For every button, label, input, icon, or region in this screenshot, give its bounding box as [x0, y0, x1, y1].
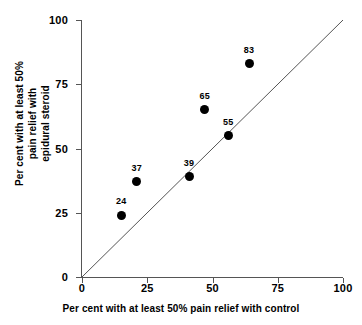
data-point-label: 55 [213, 118, 243, 127]
y-tick-mark [76, 277, 81, 278]
data-point [200, 105, 209, 114]
y-axis-title-line-1: Per cent with at least 50% [13, 14, 26, 234]
data-point-label: 65 [190, 92, 220, 101]
data-point-label: 37 [122, 164, 152, 173]
y-tick-mark [76, 20, 81, 21]
x-tick-label: 25 [127, 283, 167, 294]
x-tick-label: 50 [193, 283, 233, 294]
y-axis-line [81, 20, 82, 278]
y-tick-mark [76, 84, 81, 85]
data-point-label: 83 [234, 46, 264, 55]
x-tick-label: 100 [323, 283, 362, 294]
data-point-label: 39 [174, 159, 204, 168]
data-point-label: 24 [106, 197, 136, 206]
y-tick-mark [76, 149, 81, 150]
data-point [117, 211, 126, 220]
x-axis-title: Per cent with at least 50% pain relief w… [0, 303, 362, 314]
x-tick-label: 75 [258, 283, 298, 294]
data-point [185, 172, 194, 181]
data-point [132, 177, 141, 186]
y-axis-title-line-3: epidural steroid [39, 14, 52, 234]
y-axis-title-line-2: pain relief with [26, 14, 39, 234]
scatter-plot-figure: 0255075100 0255075100 243739655583 Per c… [0, 0, 362, 325]
y-axis-title: Per cent with at least 50% pain relief w… [13, 14, 52, 234]
x-tick-label: 0 [62, 283, 102, 294]
y-tick-mark [76, 213, 81, 214]
data-point [224, 131, 233, 140]
data-point [245, 59, 254, 68]
y-tick-label: 0 [28, 272, 68, 283]
